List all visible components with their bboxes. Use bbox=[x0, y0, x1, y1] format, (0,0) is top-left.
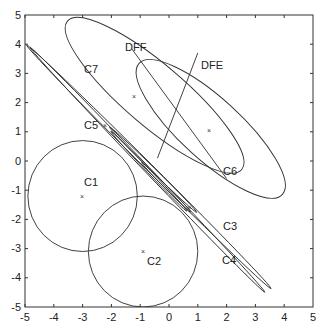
x-tick-label: -1 bbox=[135, 311, 145, 323]
label-c7: C7 bbox=[84, 63, 98, 75]
axes-frame bbox=[25, 15, 313, 307]
x-tick-label: -4 bbox=[49, 311, 59, 323]
x-tick-label: -2 bbox=[107, 311, 117, 323]
y-axis: 5 4 3 2 1 0 -1 -2 -3 -4 -5 bbox=[11, 9, 313, 313]
y-tick-label: -5 bbox=[11, 301, 21, 313]
y-tick-label: 5 bbox=[15, 9, 21, 21]
x-tick-label: 5 bbox=[310, 311, 316, 323]
y-tick-label: 3 bbox=[15, 67, 21, 79]
label-c4: C4 bbox=[222, 254, 236, 266]
c4-center-marker: × bbox=[187, 204, 191, 211]
label-dff: DFF bbox=[125, 41, 147, 53]
y-tick-label: -1 bbox=[11, 184, 21, 196]
x-tick-label: -3 bbox=[78, 311, 88, 323]
y-tick-label: 1 bbox=[15, 125, 21, 137]
c6-center-marker: × bbox=[207, 127, 211, 134]
cluster-diagram: × × × × × × C1 C2 C3 C4 C5 C6 C7 DFF DFE… bbox=[0, 0, 330, 330]
x-tick-label: 3 bbox=[252, 311, 258, 323]
y-tick-label: -2 bbox=[11, 213, 21, 225]
y-tick-label: 4 bbox=[15, 38, 21, 50]
x-axis: -5 -4 -3 -2 -1 0 1 2 3 4 5 bbox=[20, 15, 316, 323]
y-tick-label: 2 bbox=[15, 96, 21, 108]
x-tick-label: 1 bbox=[195, 311, 201, 323]
y-tick-label: 0 bbox=[15, 155, 21, 167]
x-tick-label: 4 bbox=[281, 311, 287, 323]
c1-center-marker: × bbox=[80, 193, 84, 200]
x-tick-label: 0 bbox=[166, 311, 172, 323]
label-c3: C3 bbox=[223, 220, 237, 232]
dfe-line bbox=[157, 53, 197, 158]
c2-center-marker: × bbox=[141, 248, 145, 255]
x-tick-label: 2 bbox=[224, 311, 230, 323]
x-tick-label: -5 bbox=[20, 311, 30, 323]
c5-center-marker: × bbox=[103, 122, 107, 129]
label-dfe: DFE bbox=[201, 59, 223, 71]
label-c1: C1 bbox=[84, 176, 98, 188]
c7-center-marker: × bbox=[132, 93, 136, 100]
label-c2: C2 bbox=[147, 255, 161, 267]
label-c6: C6 bbox=[223, 165, 237, 177]
y-tick-label: -4 bbox=[11, 271, 21, 283]
y-tick-label: -3 bbox=[11, 242, 21, 254]
label-c5: C5 bbox=[84, 119, 98, 131]
